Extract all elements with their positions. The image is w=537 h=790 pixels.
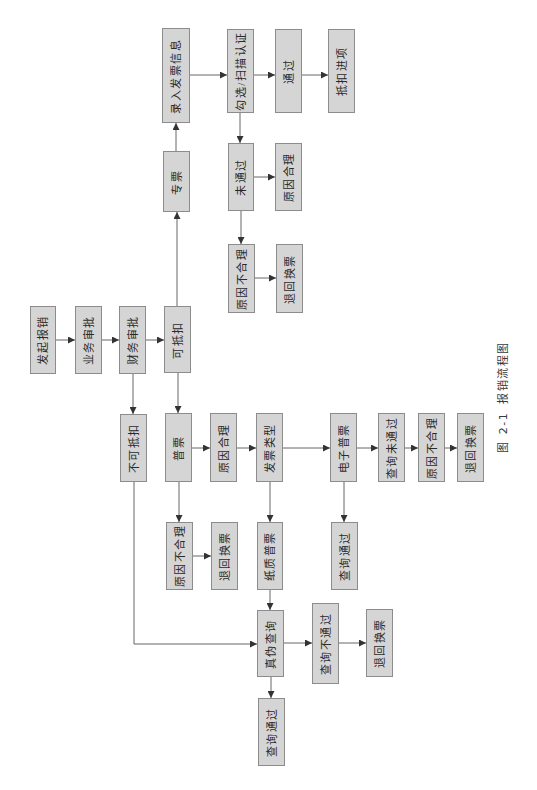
node-reason-unreasonable-upper: 原因不合理 [228, 244, 255, 313]
node-label: 原因合理 [283, 152, 294, 202]
caption-title: 报销流程图 [497, 341, 510, 404]
figure-caption: 图2-1报销流程图 [494, 341, 510, 452]
flowchart-canvas: 发起报销 业务审批 财务审批 可抵扣 专票 录入发票信息 勾选/扫描认证 通过 … [0, 0, 537, 790]
node-label: 纸质普票 [265, 531, 276, 581]
node-reason-unreasonable-right: 原因不合理 [418, 413, 445, 482]
node-select-scan-verify: 勾选/扫描认证 [227, 29, 254, 113]
node-label: 未通过 [236, 158, 247, 196]
node-label: 退回换票 [219, 531, 230, 581]
node-deductible: 可抵扣 [164, 306, 191, 373]
node-label: 电子普票 [338, 423, 349, 473]
node-ordinary-invoice: 普票 [165, 413, 192, 482]
node-query-passed-mid: 查询通过 [331, 522, 358, 590]
node-label: 业务审批 [83, 315, 94, 365]
node-return-exchange-left: 退回换票 [211, 522, 238, 590]
node-label: 录入发票信息 [171, 38, 182, 113]
node-return-exchange-bottom: 退回换票 [366, 609, 393, 677]
node-label: 抵扣进项 [336, 46, 347, 96]
node-non-deductible: 不可抵扣 [120, 414, 147, 482]
node-return-exchange-right: 退回换票 [457, 413, 484, 482]
caption-number: 2-1 [497, 412, 510, 434]
caption-prefix: 图 [497, 440, 510, 453]
node-label: 查询未通过 [386, 416, 397, 479]
node-finance-approval: 财务审批 [119, 306, 146, 374]
node-paper-ordinary: 纸质普票 [257, 522, 283, 590]
node-label: 查询不通过 [320, 612, 331, 675]
node-reason-reasonable-upper: 原因合理 [275, 143, 302, 211]
node-enter-invoice-info: 录入发票信息 [162, 28, 190, 123]
node-label: 退回换票 [284, 254, 295, 304]
node-start-reimbursement: 发起报销 [30, 306, 56, 374]
node-label: 发票类型 [264, 423, 275, 473]
node-label: 普票 [173, 435, 184, 460]
node-business-approval: 业务审批 [75, 306, 102, 374]
node-reason-reasonable-mid: 原因合理 [210, 413, 237, 482]
node-not-pass: 未通过 [228, 143, 254, 211]
node-label: 退回换票 [465, 423, 476, 473]
edge-nondeductible-to-authenticity [134, 482, 257, 644]
node-label: 原因不合理 [174, 525, 185, 588]
node-label: 可抵扣 [172, 321, 183, 359]
node-electronic-ordinary: 电子普票 [330, 413, 357, 482]
node-query-not-passed: 查询未通过 [378, 413, 405, 482]
node-label: 退回换票 [374, 618, 385, 668]
node-label: 原因不合理 [426, 416, 437, 479]
node-label: 真伪查询 [265, 619, 276, 669]
node-query-passed-bottom: 查询通过 [258, 698, 285, 766]
node-label: 原因不合理 [236, 247, 247, 310]
node-label: 查询通过 [266, 707, 277, 757]
node-reason-unreasonable-left: 原因不合理 [166, 522, 193, 590]
node-label: 通过 [283, 59, 294, 84]
node-authenticity-query: 真伪查询 [257, 610, 284, 677]
node-pass: 通过 [275, 29, 302, 113]
node-label: 财务审批 [127, 315, 138, 365]
node-query-failed: 查询不通过 [312, 603, 339, 684]
node-label: 不可抵扣 [128, 423, 139, 473]
node-invoice-type: 发票类型 [256, 413, 283, 482]
node-label: 发起报销 [38, 315, 49, 365]
node-return-exchange-upper: 退回换票 [276, 244, 303, 313]
node-label: 查询通过 [339, 531, 350, 581]
node-special-invoice: 专票 [163, 151, 190, 212]
node-label: 专票 [171, 169, 182, 194]
node-deduct-input-tax: 抵扣进项 [328, 29, 355, 113]
node-label: 勾选/扫描认证 [235, 31, 246, 111]
node-label: 原因合理 [218, 423, 229, 473]
